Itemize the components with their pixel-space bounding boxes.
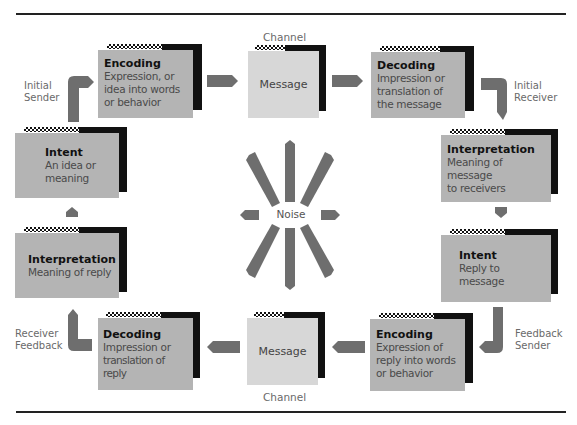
box-title: Decoding [103,328,189,341]
box-title: Encoding [104,57,187,70]
box-desc-line: reply into words [376,354,459,367]
box-title: Encoding [376,328,459,341]
box-face: Decoding Impression or translation of th… [371,52,465,118]
box-face: Intent Reply to message [441,235,551,302]
receiver-feedback-label: Receiver Feedback [15,328,63,352]
box-title: Interpretation [28,253,113,266]
box-face: Encoding Expression, or idea into words … [98,50,193,118]
encoding-top-box: Encoding Expression, or idea into words … [98,44,202,118]
checker-strip [380,46,440,51]
arrow-right-icon [207,74,239,88]
box-desc-line: Expression of [376,341,459,354]
box-desc-line: Meaning of message [447,156,545,182]
interpretation-right-box: Interpretation Meaning of message to rec… [441,129,558,202]
label-line: Receiver [15,328,58,339]
checker-strip [107,44,162,49]
arrow-up-icon [65,207,79,217]
initial-receiver-label: Initial Receiver [514,80,557,104]
box-desc-line: to receivers [447,182,545,195]
intent-left-box: Intent An idea or meaning [15,127,127,198]
label-line: Receiver [514,92,557,103]
label-line: Feedback [15,340,63,351]
feedback-sender-label: Feedback Sender [515,328,563,352]
box-face: Intent An idea or meaning [15,133,119,198]
elbow-arrow-down-left-icon [477,307,507,357]
box-title: Message [258,345,306,358]
box-desc-line: Reply to message [459,262,545,288]
box-title: Intent [45,146,113,159]
box-face: Interpretation Meaning of message to rec… [441,135,551,202]
checker-strip [24,127,79,132]
initial-sender-label: Initial Sender [24,80,59,104]
label-line: Initial [514,80,542,91]
bottom-rule [16,411,566,413]
elbow-arrow-left-up-icon [64,305,94,353]
box-desc-line: translation of [377,85,459,98]
checker-strip [254,312,284,317]
box-face: Encoding Expression of reply into words … [370,319,465,391]
box-desc-line: meaning [45,172,113,185]
encoding-bottom-box: Encoding Expression of reply into words … [370,313,473,391]
box-title: Interpretation [447,143,545,156]
box-title: Intent [459,249,545,262]
top-rule [16,13,566,15]
message-top-box: Message [248,45,326,118]
box-desc-line: Meaning of reply [28,266,113,279]
box-face: Message [247,318,318,385]
noise-label: Noise [272,208,310,220]
arrow-right-icon [332,74,364,88]
label-line: Initial [24,80,52,91]
box-face: Decoding Impression or translation of re… [98,318,193,390]
box-title: Decoding [377,59,459,72]
box-desc-line: or behavior [104,96,187,109]
checker-strip [255,45,285,50]
label-line: Sender [24,92,59,103]
elbow-arrow-right-down-icon [481,76,511,122]
box-title: Message [259,78,307,91]
intent-right-box: Intent Reply to message [441,229,558,302]
checker-strip [450,129,505,134]
box-desc-line: An idea or [45,159,113,172]
arrow-left-icon [331,340,365,354]
box-desc-line: Expression, or [104,70,187,83]
box-face: Message [248,51,319,118]
label-line: Sender [515,340,550,351]
box-desc-line: or behavior [376,367,459,380]
channel-top-label: Channel [263,31,306,43]
interpretation-left-box: Interpretation Meaning of reply [15,227,127,298]
decoding-top-box: Decoding Impression or translation of th… [371,46,474,118]
box-desc-line: Impression or [377,72,459,85]
arrow-left-icon [206,340,240,354]
checker-strip [24,227,79,232]
message-bottom-box: Message [247,312,325,385]
decoding-bottom-box: Decoding Impression or translation of re… [98,312,200,391]
channel-bottom-label: Channel [263,391,306,403]
box-desc-line: Impression or [103,341,189,354]
box-desc-line: translation of reply [103,354,189,380]
label-line: Feedback [515,328,563,339]
checker-strip [106,312,161,317]
elbow-arrow-up-right-icon [66,72,96,122]
checker-strip [379,313,434,318]
box-face: Interpretation Meaning of reply [15,233,119,298]
checker-strip [450,229,505,234]
box-desc-line: idea into words [104,83,187,96]
arrow-down-icon [494,207,508,219]
box-desc-line: the message [377,98,459,111]
